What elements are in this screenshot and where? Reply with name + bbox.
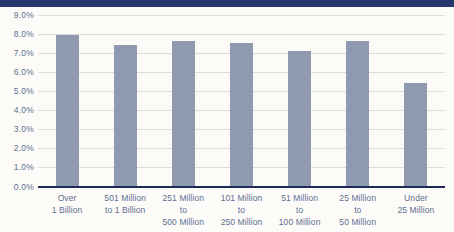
- x-axis-label-line: Under: [378, 192, 454, 204]
- x-axis-category-label: Under25 Million: [378, 192, 454, 216]
- y-axis-tick-label: 3.0%: [4, 125, 34, 134]
- y-axis-tick-label: 5.0%: [4, 87, 34, 96]
- y-axis-tick-label: 1.0%: [4, 163, 34, 172]
- gridline: [38, 15, 445, 16]
- y-axis-tick-label: 0.0%: [4, 183, 34, 192]
- y-axis-tick-label: 7.0%: [4, 49, 34, 58]
- bar: [114, 45, 137, 186]
- x-axis-line: [38, 186, 445, 188]
- gridline: [38, 34, 445, 35]
- bar: [404, 83, 427, 186]
- x-axis-label-line: 50 Million: [320, 216, 396, 228]
- y-axis-tick-label: 6.0%: [4, 68, 34, 77]
- y-axis-tick-label: 9.0%: [4, 11, 34, 20]
- bar-chart: 0.0%1.0%2.0%3.0%4.0%5.0%6.0%7.0%8.0%9.0%…: [0, 0, 454, 232]
- bar: [230, 43, 253, 186]
- bar: [346, 41, 369, 186]
- page-background: 0.0%1.0%2.0%3.0%4.0%5.0%6.0%7.0%8.0%9.0%…: [0, 0, 454, 232]
- y-axis-tick-label: 8.0%: [4, 30, 34, 39]
- bar: [172, 41, 195, 186]
- x-axis-label-line: 25 Million: [378, 204, 454, 216]
- bar: [56, 35, 79, 186]
- y-axis-tick-label: 2.0%: [4, 144, 34, 153]
- bar: [288, 51, 311, 186]
- y-axis-tick-label: 4.0%: [4, 106, 34, 115]
